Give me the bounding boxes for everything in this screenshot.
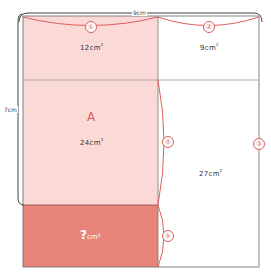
marker-1: ①: [85, 21, 97, 33]
marker-4: ④: [162, 136, 174, 148]
area-label-top-left: 12cm2: [80, 44, 104, 52]
area-label-A: 24cm2: [80, 139, 104, 147]
marker-2: ②: [203, 21, 215, 33]
unknown-area-label: ?cm²: [80, 228, 100, 242]
area-label-right-lower: 27cm2: [199, 170, 223, 178]
diagram-lines: [0, 0, 271, 279]
height-dimension-label: 7cm: [3, 106, 18, 113]
region-letter-A: A: [87, 110, 95, 124]
width-dimension-label: 9cm: [132, 9, 147, 16]
marker-3: ③: [253, 138, 265, 150]
marker-5: ⑤: [162, 230, 174, 242]
area-label-top-right: 9cm2: [200, 44, 219, 52]
